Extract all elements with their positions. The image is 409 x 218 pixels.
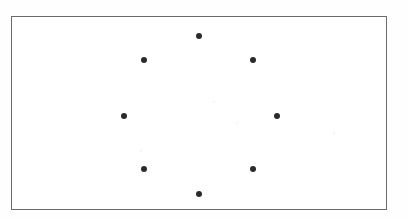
scan-speckle [333,132,335,134]
scan-speckle [140,150,142,152]
scan-speckle [213,101,215,103]
figure-canvas [0,0,409,218]
plot-border [11,16,387,210]
scan-speckle [111,178,112,179]
scan-speckle [240,125,241,126]
scan-speckle [398,96,399,97]
scan-speckle [236,122,238,124]
